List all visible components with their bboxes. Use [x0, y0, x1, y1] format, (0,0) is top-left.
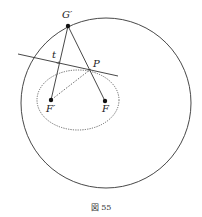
- point-g-prime: [66, 24, 70, 28]
- figure-caption: 図 55: [0, 201, 202, 212]
- segment-gprime-fprime: [51, 26, 68, 100]
- label-t: t: [52, 50, 56, 60]
- tangent-line: [18, 54, 118, 76]
- point-f-prime: [49, 98, 53, 102]
- diagram-canvas: [0, 0, 202, 217]
- label-f-prime: F′: [46, 104, 55, 114]
- label-g-prime: G′: [62, 10, 72, 20]
- ellipse-circle-diagram: G′ P F′ F t 図 55: [0, 0, 202, 217]
- label-f: F: [102, 104, 109, 114]
- label-p: P: [93, 59, 100, 69]
